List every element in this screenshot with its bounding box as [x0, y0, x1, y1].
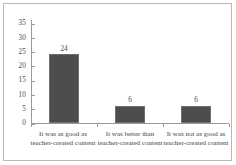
bar-not-as-good [181, 106, 211, 123]
bar-value-as-good-as: 24 [49, 46, 79, 53]
bar-value-not-as-good: 6 [181, 97, 211, 104]
bar-value-better-than: 6 [115, 97, 145, 104]
y-tick-label-10: 10 [4, 92, 26, 99]
x-category-label-as-good-as: It was as good as teacher-created conten… [29, 130, 97, 147]
y-tick-label-20: 20 [4, 63, 26, 70]
x-tick-mark-2 [163, 124, 164, 127]
y-tick-label-0: 0 [4, 120, 26, 127]
y-tick-mark-5 [32, 109, 35, 110]
x-category-label-not-as-good: It was not as good as teacher-created co… [161, 130, 231, 147]
x-tick-mark-1 [97, 124, 98, 127]
bar-chart-plot-area: 35 30 25 20 15 10 5 0 24 6 6 It was as g… [4, 4, 233, 162]
y-tick-mark-35 [32, 24, 35, 25]
x-axis-line [31, 123, 229, 124]
y-tick-label-5: 5 [4, 106, 26, 113]
y-tick-mark-30 [32, 38, 35, 39]
x-category-label-better-than: It was better than teacher-created conte… [96, 130, 164, 147]
bar-better-than [115, 106, 145, 123]
y-tick-mark-25 [32, 52, 35, 53]
y-tick-label-15: 15 [4, 77, 26, 84]
bar-as-good-as [49, 54, 79, 123]
x-tick-mark-start [31, 124, 32, 127]
y-tick-label-35: 35 [4, 20, 26, 27]
x-tick-mark-end [229, 124, 230, 127]
y-tick-label-30: 30 [4, 35, 26, 42]
y-tick-mark-0 [32, 124, 35, 125]
y-tick-mark-20 [32, 66, 35, 67]
y-tick-mark-15 [32, 81, 35, 82]
y-tick-label-25: 25 [4, 49, 26, 56]
y-tick-mark-10 [32, 95, 35, 96]
chart-frame: 35 30 25 20 15 10 5 0 24 6 6 It was as g… [3, 3, 232, 161]
